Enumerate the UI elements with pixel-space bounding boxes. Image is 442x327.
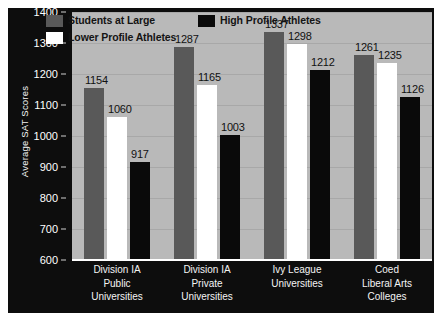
- legend-label: Students at Large: [68, 14, 155, 26]
- x-axis-category-line: Division IA: [162, 263, 252, 277]
- y-axis-tick-800: 800: [6, 192, 58, 204]
- bar-value-label: 1261: [355, 41, 379, 53]
- x-axis-category-line: Private: [162, 277, 252, 291]
- bar: [354, 55, 374, 260]
- chart-legend: Students at LargeHigh Profile AthletesLo…: [46, 14, 346, 54]
- x-axis-category-label: Ivy LeagueUniversities: [252, 263, 342, 290]
- bar: [310, 70, 330, 260]
- x-axis-category-line: Universities: [72, 290, 162, 304]
- bar-value-label: 1212: [311, 56, 335, 68]
- legend-swatch: [46, 32, 63, 44]
- bar-value-label: 1126: [401, 83, 424, 95]
- bar-value-label: 1060: [108, 103, 132, 115]
- x-axis-category-label: CoedLiberal ArtsColleges: [342, 263, 432, 304]
- bar: [84, 88, 104, 260]
- x-axis-category-line: Colleges: [342, 290, 432, 304]
- x-axis-category-label: Division IAPrivateUniversities: [162, 263, 252, 304]
- bar-value-label: 1235: [378, 49, 402, 61]
- y-axis-tick-mark: [61, 136, 66, 137]
- y-axis-tick-mark: [61, 260, 66, 261]
- legend-swatch: [46, 15, 63, 27]
- legend-swatch: [198, 15, 215, 27]
- x-axis-category-line: Universities: [252, 277, 342, 291]
- x-axis-category-labels: Division IAPublicUniversitiesDivision IA…: [72, 263, 432, 313]
- bar: [400, 97, 420, 260]
- bar-value-label: 1003: [221, 121, 245, 133]
- x-axis-category-line: Liberal Arts: [342, 277, 432, 291]
- y-axis-tick-600: 600: [6, 254, 58, 266]
- x-axis-baseline: [72, 259, 432, 261]
- x-axis-category-line: Coed: [342, 263, 432, 277]
- chart-figure: Average SAT Scores 600700800900100011001…: [8, 8, 434, 313]
- bar: [264, 32, 284, 260]
- bar-value-label: 1165: [198, 71, 221, 83]
- x-axis-category-label: Division IAPublicUniversities: [72, 263, 162, 304]
- y-axis-tick-mark: [61, 105, 66, 106]
- bar: [220, 135, 240, 260]
- bar: [197, 85, 217, 260]
- bar: [174, 47, 194, 260]
- y-axis-tick-mark: [61, 167, 66, 168]
- y-axis-tick-mark: [61, 74, 66, 75]
- bar-value-label: 917: [131, 148, 149, 160]
- y-axis-tick-700: 700: [6, 223, 58, 235]
- gridline: [72, 12, 432, 13]
- y-axis-tick-mark: [61, 229, 66, 230]
- bar-value-label: 1154: [85, 74, 108, 86]
- y-axis-tick-1200: 1200: [6, 68, 58, 80]
- y-axis-tick-mark: [61, 12, 66, 13]
- x-axis-category-line: Public: [72, 277, 162, 291]
- y-axis-tick-1000: 1000: [6, 130, 58, 142]
- bar: [107, 117, 127, 260]
- x-axis-category-line: Division IA: [72, 263, 162, 277]
- x-axis-category-line: Ivy League: [252, 263, 342, 277]
- y-axis-tick-900: 900: [6, 161, 58, 173]
- bar: [130, 162, 150, 260]
- bar: [287, 44, 307, 260]
- x-axis-category-line: Universities: [162, 290, 252, 304]
- y-axis-tick-1100: 1100: [6, 99, 58, 111]
- legend-label: Lower Profile Athletes: [68, 31, 176, 43]
- y-axis-tick-mark: [61, 198, 66, 199]
- bar: [377, 63, 397, 260]
- legend-label: High Profile Athletes: [220, 14, 321, 26]
